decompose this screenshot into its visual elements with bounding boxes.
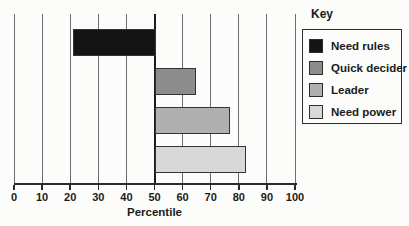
x-axis-line (14, 183, 297, 185)
x-tick-label-100: 100 (281, 191, 309, 204)
bar-quick-decider (155, 68, 196, 95)
legend-item-label: Need power (331, 106, 396, 118)
x-tick-label-20: 20 (56, 191, 84, 204)
legend-item-label: Quick decider (331, 62, 407, 74)
x-axis-title: Percentile (114, 206, 195, 218)
x-tick-label-30: 30 (84, 191, 112, 204)
bar-chart-figure: 0102030405060708090100 Percentile Key Ne… (0, 0, 409, 226)
chart-plot-area (14, 14, 295, 184)
gridline-90 (266, 14, 267, 184)
legend-swatch-icon (309, 39, 323, 53)
x-tick-label-90: 90 (253, 191, 281, 204)
x-tick-label-80: 80 (225, 191, 253, 204)
legend-item-need-rules: Need rules (309, 35, 401, 57)
legend-item-need-power: Need power (309, 101, 401, 123)
legend-title: Key (311, 7, 333, 21)
bar-leader (155, 107, 230, 134)
legend-item-quick-decider: Quick decider (309, 57, 401, 79)
x-tick-label-50: 50 (141, 191, 169, 204)
legend-swatch-icon (309, 83, 323, 97)
gridline-0 (14, 14, 15, 184)
legend-item-label: Need rules (331, 40, 390, 52)
gridline-10 (42, 14, 43, 184)
bar-need-rules (73, 29, 156, 56)
gridline-100 (295, 14, 296, 184)
legend-swatch-icon (309, 105, 323, 119)
x-tick-80 (238, 185, 240, 190)
x-tick-30 (98, 185, 100, 190)
x-tick-0 (13, 185, 15, 190)
x-tick-40 (126, 185, 128, 190)
x-tick-100 (294, 185, 296, 190)
legend-box: Need rulesQuick deciderLeaderNeed power (302, 29, 402, 124)
x-tick-label-40: 40 (112, 191, 140, 204)
x-tick-label-70: 70 (197, 191, 225, 204)
x-tick-70 (210, 185, 212, 190)
x-tick-label-60: 60 (169, 191, 197, 204)
legend-item-leader: Leader (309, 79, 401, 101)
gridline-20 (70, 14, 71, 184)
x-tick-label-10: 10 (28, 191, 56, 204)
x-tick-20 (69, 185, 71, 190)
legend-swatch-icon (309, 61, 323, 75)
x-tick-label-0: 0 (0, 191, 28, 204)
legend-item-label: Leader (331, 84, 369, 96)
x-tick-50 (154, 185, 156, 190)
bar-need-power (155, 146, 247, 173)
x-tick-60 (182, 185, 184, 190)
x-tick-90 (266, 185, 268, 190)
x-tick-10 (41, 185, 43, 190)
